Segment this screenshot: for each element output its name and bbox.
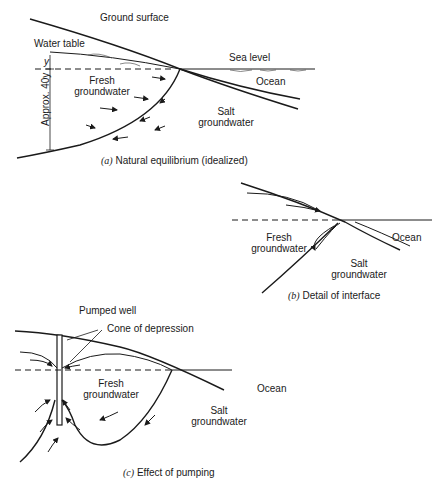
fresh-groundwater-label-c: Freshgroundwater xyxy=(80,378,142,400)
ocean-label-c: Ocean xyxy=(257,383,286,394)
caption-c: (c) Effect of pumping xyxy=(123,467,215,478)
pumped-well-shaft xyxy=(57,335,62,425)
flow-arrows-c xyxy=(30,360,155,452)
salt-groundwater-label-a: Saltgroundwater xyxy=(196,106,256,128)
ocean-label-b: Ocean xyxy=(392,232,421,243)
sea-level-label: Sea level xyxy=(229,52,270,63)
depth-label: Approx. 40y xyxy=(40,73,51,126)
salt-groundwater-label-b: Saltgroundwater xyxy=(328,258,390,280)
caption-a: (a) Natural equilibrium (idealized) xyxy=(101,155,248,166)
ground-surface-label: Ground surface xyxy=(100,12,169,23)
fresh-groundwater-label-b: Freshgroundwater xyxy=(248,232,310,254)
ocean-label-a: Ocean xyxy=(256,76,285,87)
fresh-groundwater-label-a: Freshgroundwater xyxy=(72,75,132,97)
caption-b: (b) Detail of interface xyxy=(288,290,380,301)
salt-groundwater-label-c: Saltgroundwater xyxy=(188,405,250,427)
cone-of-depression-label: Cone of depression xyxy=(107,323,194,334)
water-table-line xyxy=(50,52,180,69)
water-table-label: Water table xyxy=(34,38,85,49)
y-label: y xyxy=(44,56,49,67)
pumped-well-label: Pumped well xyxy=(79,305,136,316)
